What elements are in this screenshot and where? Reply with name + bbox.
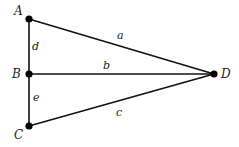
vertex-label-b: B — [11, 67, 21, 81]
vertex-a-dot — [25, 15, 32, 22]
edge-label-a: a — [117, 29, 124, 42]
edge-label-e: e — [33, 91, 40, 104]
edge-label-d: d — [32, 40, 39, 53]
vertex-c-dot — [25, 122, 32, 129]
graph-diagram: A B C D a b c d e — [0, 0, 239, 147]
vertex-label-d: D — [220, 67, 231, 81]
edge-a — [29, 19, 214, 74]
edge-label-c: c — [116, 106, 122, 119]
vertex-label-c: C — [14, 128, 23, 142]
vertex-d-dot — [210, 70, 217, 77]
vertex-b-dot — [25, 70, 32, 77]
edge-label-b: b — [103, 59, 110, 72]
vertex-label-a: A — [13, 4, 23, 18]
